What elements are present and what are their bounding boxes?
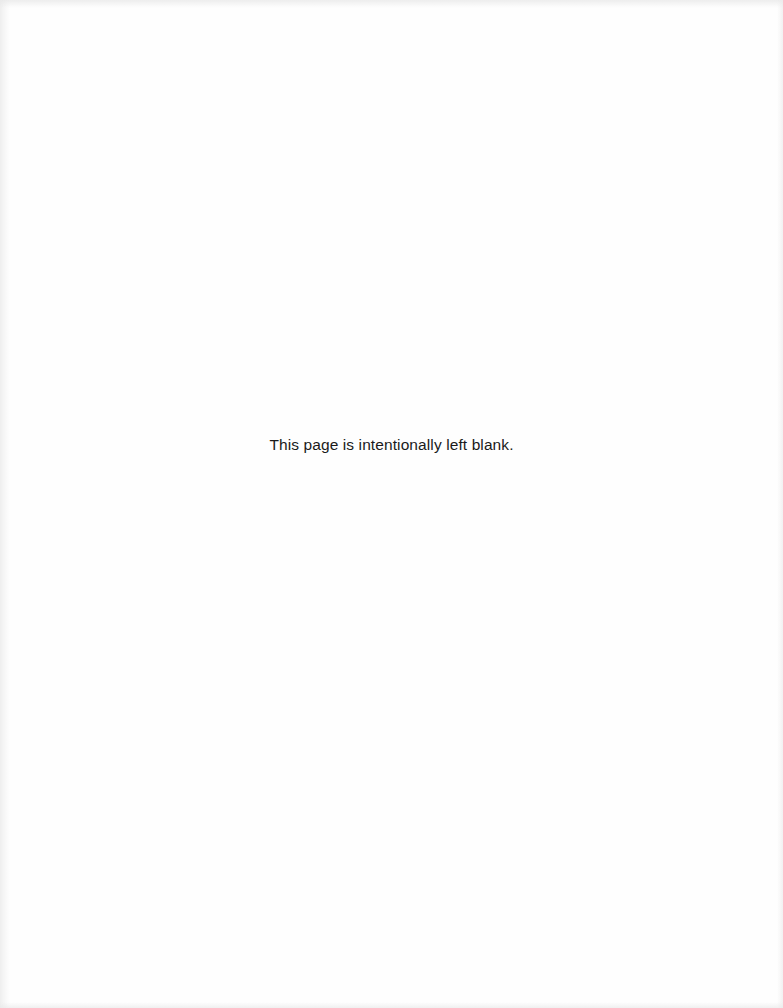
- scan-edge-bottom: [0, 1002, 783, 1008]
- scan-edge-top: [0, 0, 783, 8]
- scan-edge-left: [0, 0, 10, 1008]
- blank-page-notice: This page is intentionally left blank.: [0, 435, 783, 455]
- scan-edge-right: [777, 0, 783, 1008]
- document-page: This page is intentionally left blank.: [0, 0, 783, 1008]
